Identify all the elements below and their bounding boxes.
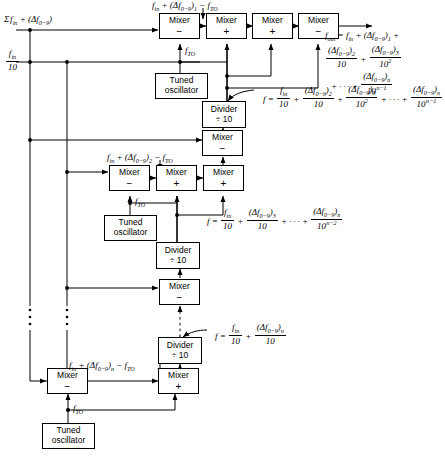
tuned-oscillator-line2: oscillator — [52, 436, 86, 446]
divider-divisor: ÷ 10 — [172, 351, 188, 361]
tuned-oscillator-line2: oscillator — [114, 228, 148, 238]
mixer-block-r2c2[interactable]: Mixer + — [156, 165, 197, 191]
tuned-oscillator-block-2[interactable]: Tuned oscillator — [104, 215, 157, 241]
label-fto-rown: fTO — [73, 403, 83, 416]
mixer-label: Mixer — [119, 168, 140, 178]
junction-dot — [65, 286, 69, 290]
divider-divisor: ÷ 10 — [170, 256, 186, 266]
equation-divider1: f = fin10 + (Δf0−9)210 + (Δf0−9)3102 + ·… — [263, 84, 443, 109]
label-stage2-intermediate: fin + (Δf0−9)2 − fTO — [107, 152, 173, 165]
mixer-label: Mixer — [169, 16, 190, 26]
mixer-block-r1c3[interactable]: Mixer + — [252, 13, 293, 39]
ellipsis-left-rail-a — [29, 309, 32, 326]
mixer-sign: + — [176, 382, 182, 391]
mixer-block-rn-c2[interactable]: Mixer + — [158, 368, 199, 394]
junction-dot — [175, 213, 179, 217]
equation-divider3: f = fin10 + (Δf0−9)n10 — [215, 322, 287, 346]
ellipsis-center-column — [178, 310, 182, 332]
mixer-block-r3-mid[interactable]: Mixer − — [159, 279, 200, 305]
mixer-label: Mixer — [308, 16, 329, 26]
tuned-oscillator-block-1[interactable]: Tuned oscillator — [155, 73, 208, 99]
mixer-label: Mixer — [262, 16, 283, 26]
mixer-sign: − — [220, 144, 226, 153]
mixer-sign: − — [127, 179, 133, 188]
tuned-oscillator-line2: oscillator — [165, 86, 199, 96]
junction-dot — [128, 201, 132, 205]
mixer-sign: − — [177, 293, 183, 302]
junction-dot — [28, 28, 32, 32]
pointer-divider3-equation — [183, 330, 207, 337]
mixer-sign: − — [65, 382, 71, 391]
junction-dot — [28, 138, 32, 142]
tuned-oscillator-block-3[interactable]: Tuned oscillator — [42, 423, 95, 449]
label-fto-row2: fTO — [135, 196, 145, 209]
mixer-block-r1c2[interactable]: Mixer + — [206, 13, 247, 39]
junction-dot — [28, 60, 32, 64]
mixer-sign: + — [174, 179, 180, 188]
mixer-label: Mixer — [212, 133, 233, 143]
mixer-sign: + — [224, 27, 230, 36]
label-stagen-intermediate: fin + (Δf0−9)n − fTO — [69, 360, 135, 373]
junction-dot — [225, 86, 229, 90]
mixer-block-r2c1[interactable]: Mixer − — [109, 165, 150, 191]
mixer-sign: + — [221, 179, 227, 188]
mixer-block-r2-top[interactable]: Mixer − — [202, 130, 243, 156]
divider-block-3[interactable]: Divider ÷ 10 — [158, 337, 202, 364]
junction-dot — [66, 408, 70, 412]
mixer-label: Mixer — [216, 16, 237, 26]
junction-dot — [65, 170, 69, 174]
mixer-label: Mixer — [168, 371, 189, 381]
mixer-sign: + — [270, 27, 276, 36]
junction-dot — [178, 60, 182, 64]
mixer-block-r2c3[interactable]: Mixer + — [203, 165, 244, 191]
mixer-sign: − — [177, 27, 183, 36]
divider-divisor: ÷ 10 — [216, 115, 232, 125]
mixer-label: Mixer — [166, 168, 187, 178]
label-sum-input: Σ fin + (Δf0−9) — [4, 14, 52, 27]
mixer-label: Mixer — [213, 168, 234, 178]
label-fto-row1: fTO — [185, 45, 195, 58]
divider-block-2[interactable]: Divider ÷ 10 — [156, 242, 200, 269]
label-fin-over-10: fin10 — [5, 48, 20, 72]
junction-dot — [225, 74, 229, 78]
mixer-label: Mixer — [169, 282, 190, 292]
mixer-block-r1c1[interactable]: Mixer − — [159, 13, 200, 39]
ellipsis-left-rail-b — [66, 309, 69, 326]
equation-divider2: f = fin10 + (Δf0−9)310 + · · · + (Δf0−9)… — [207, 206, 343, 231]
label-stage1-intermediate: fin + (Δf0−9)1 − fTO — [152, 0, 218, 13]
pointer-divider1-equation — [228, 90, 254, 101]
divider-block-1[interactable]: Divider ÷ 10 — [202, 101, 246, 128]
mixer-sign: − — [316, 27, 322, 36]
